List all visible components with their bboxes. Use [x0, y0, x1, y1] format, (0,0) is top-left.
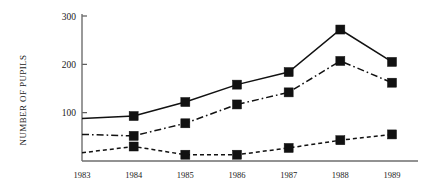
- x-tick-label: 1986: [229, 170, 246, 180]
- y-tick-label: 100: [62, 108, 77, 118]
- y-tick-label: 200: [62, 60, 77, 70]
- data-point-marker: [233, 100, 242, 109]
- x-tick-label: 1988: [332, 170, 349, 180]
- data-point-marker: [233, 150, 242, 159]
- data-point-marker: [129, 142, 138, 151]
- data-point-marker: [129, 112, 138, 121]
- data-point-marker: [284, 68, 293, 77]
- data-point-marker: [388, 78, 397, 87]
- data-point-marker: [129, 131, 138, 140]
- data-point-marker: [388, 130, 397, 139]
- x-tick-label: 1987: [280, 170, 297, 180]
- x-tick-label: 1984: [125, 170, 143, 180]
- data-point-marker: [181, 119, 190, 128]
- data-point-marker: [233, 80, 242, 89]
- data-series-layer: [82, 25, 397, 159]
- series-dash-dot: [82, 56, 397, 140]
- series-line: [82, 61, 392, 136]
- y-tick-label-group: 100200300: [62, 12, 77, 119]
- data-point-marker: [284, 88, 293, 97]
- data-point-marker: [388, 57, 397, 66]
- data-point-marker: [181, 98, 190, 107]
- x-tick-label: 1989: [384, 170, 401, 180]
- data-point-marker: [336, 25, 345, 34]
- x-tick-label-group: 1983198419851986198719881989: [74, 170, 401, 180]
- y-axis-title-group: NUMBER OF PUPILS: [18, 55, 28, 146]
- data-point-marker: [284, 143, 293, 152]
- data-point-marker: [181, 150, 190, 159]
- chart-container: NUMBER OF PUPILS 100200300 1983198419851…: [0, 0, 432, 190]
- data-point-marker: [336, 136, 345, 145]
- y-tick-label: 300: [62, 12, 77, 22]
- x-tick-label: 1985: [177, 170, 194, 180]
- y-tick-mark-group: [82, 16, 87, 113]
- y-axis-title: NUMBER OF PUPILS: [18, 55, 28, 146]
- data-point-marker: [336, 56, 345, 65]
- x-tick-label: 1983: [74, 170, 91, 180]
- line-chart-plot: NUMBER OF PUPILS 100200300 1983198419851…: [0, 0, 432, 190]
